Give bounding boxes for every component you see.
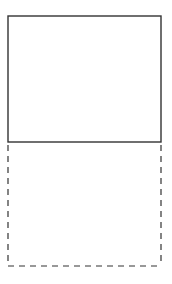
- solid-box: [8, 16, 161, 142]
- dashed-box: [8, 145, 161, 266]
- diagram-canvas: [0, 0, 172, 284]
